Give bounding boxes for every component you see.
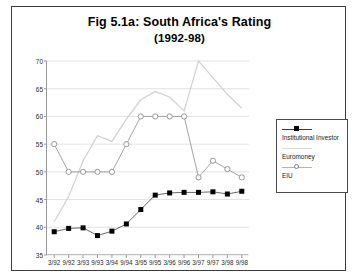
x-axis-tick-label: 9/97 (207, 259, 219, 266)
y-axis-tick-label: 70 (36, 58, 43, 65)
data-point-marker (66, 226, 71, 231)
chart-figure: Fig 5.1a: South Africa's Rating (1992-98… (0, 0, 355, 279)
chart-title-line1: Fig 5.1a: South Africa's Rating (12, 15, 347, 31)
data-point-marker (52, 229, 57, 234)
x-axis-tick-label: 9/94 (120, 259, 132, 266)
data-point-marker (182, 190, 187, 195)
data-point-marker (138, 114, 143, 119)
data-point-marker (95, 233, 100, 238)
x-axis-tick-label: 3/93 (77, 259, 89, 266)
legend-swatch-eiu (282, 163, 312, 171)
data-point-marker (66, 169, 71, 174)
y-axis-tick-label: 50 (36, 168, 43, 175)
data-point-marker (181, 114, 186, 119)
data-point-marker (196, 190, 201, 195)
x-axis-tick-label: 3/98 (221, 259, 233, 266)
data-point-marker (80, 169, 85, 174)
series-line (54, 116, 242, 177)
x-axis-tick-label: 9/92 (63, 259, 75, 266)
data-point-marker (210, 158, 215, 163)
y-axis-tick-label: 35 (36, 252, 43, 259)
data-point-marker (124, 221, 129, 226)
x-axis-tick-label: 3/95 (135, 259, 147, 266)
y-axis-tick-label: 55 (36, 141, 43, 148)
data-point-marker (124, 142, 129, 147)
legend-item-euromoney: Euromoney (282, 144, 343, 160)
y-axis-tick-label: 40 (36, 224, 43, 231)
data-point-marker (153, 193, 158, 198)
data-point-marker (95, 169, 100, 174)
x-axis-tick-label: 9/95 (149, 259, 161, 266)
data-point-marker (239, 189, 244, 194)
x-axis-tick-label: 3/94 (106, 259, 118, 266)
legend-label-eiu: EIU (282, 172, 343, 179)
chart-frame: Fig 5.1a: South Africa's Rating (1992-98… (11, 6, 346, 271)
data-point-marker (167, 114, 172, 119)
x-axis-tick-label: 3/96 (164, 259, 176, 266)
x-axis-tick-label: 9/93 (91, 259, 103, 266)
legend-label-institutional-investor: Institutional Investor (282, 134, 343, 141)
open-circle-icon (294, 164, 299, 169)
plot-area: 35404550556065703/929/923/939/933/949/94… (46, 61, 248, 255)
data-point-marker (153, 114, 158, 119)
data-point-marker (210, 189, 215, 194)
data-point-marker (109, 169, 114, 174)
data-point-marker (239, 175, 244, 180)
x-axis-tick-label: 9/96 (178, 259, 190, 266)
data-point-marker (225, 166, 230, 171)
data-point-marker (167, 190, 172, 195)
y-axis-tick-label: 65 (36, 85, 43, 92)
x-axis-tick-label: 9/98 (236, 259, 248, 266)
chart-title-line2: (1992-98) (12, 31, 347, 45)
plot-canvas (47, 61, 249, 255)
series-line (54, 61, 242, 222)
chart-legend: Institutional Investor Euromoney EIU (276, 119, 348, 193)
legend-line-icon (282, 148, 312, 149)
legend-label-euromoney: Euromoney (282, 153, 343, 160)
data-point-marker (81, 225, 86, 230)
legend-swatch-institutional-investor (282, 125, 312, 133)
data-point-marker (109, 229, 114, 234)
filled-square-icon (294, 126, 299, 131)
data-point-marker (225, 192, 230, 197)
data-point-marker (196, 175, 201, 180)
y-axis-tick-label: 60 (36, 113, 43, 120)
x-axis-tick-label: 3/92 (48, 259, 60, 266)
chart-title: Fig 5.1a: South Africa's Rating (1992-98… (12, 15, 347, 45)
legend-item-institutional-investor: Institutional Investor (282, 125, 343, 141)
legend-swatch-euromoney (282, 144, 312, 152)
x-axis-tick-label: 3/97 (192, 259, 204, 266)
data-point-marker (52, 142, 57, 147)
y-axis-tick-label: 45 (36, 196, 43, 203)
data-point-marker (138, 207, 143, 212)
legend-item-eiu: EIU (282, 163, 343, 179)
